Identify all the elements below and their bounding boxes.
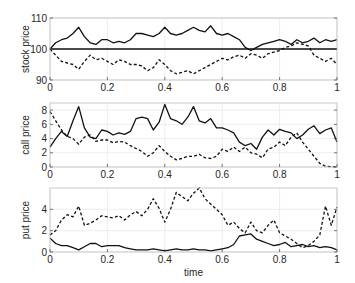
y-tick-label: 100 [30,44,47,55]
x-tick-label: 0 [47,169,53,180]
x-tick-label: 0.8 [273,254,287,265]
y-tick-label: 4 [41,133,47,144]
x-tick-label: 0.2 [100,82,114,93]
x-tick-label: 0.2 [100,254,114,265]
y-axis-label: stock price [20,25,31,73]
y-axis-label: call price [20,115,31,155]
panel-1: 9010011000.20.40.60.81stock price [20,13,340,94]
panel-3: 02400.20.40.60.81put pricetime [20,188,340,278]
x-tick-label: 0.8 [273,82,287,93]
x-tick-label: 0.6 [215,254,229,265]
x-tick-label: 1 [334,254,340,265]
x-tick-label: 0 [47,254,53,265]
y-tick-label: 6 [41,119,47,130]
x-tick-label: 0 [47,82,53,93]
figure: 9010011000.20.40.60.81stock price0246800… [0,0,355,283]
y-tick-label: 8 [41,105,47,116]
x-tick-label: 0.4 [158,169,172,180]
x-tick-label: 0.4 [158,254,172,265]
x-tick-label: 0.4 [158,82,172,93]
y-tick-label: 110 [31,13,47,24]
y-tick-label: 2 [41,147,47,158]
y-tick-label: 90 [36,75,48,86]
x-axis-label: time [184,267,203,278]
x-tick-label: 1 [334,169,340,180]
x-tick-label: 0.6 [215,82,229,93]
x-tick-label: 0.6 [215,169,229,180]
y-tick-label: 2 [41,225,47,236]
x-tick-label: 0.8 [273,169,287,180]
y-tick-label: 4 [41,204,47,215]
panel-2: 0246800.20.40.60.81call price [20,103,340,180]
x-tick-label: 1 [334,82,340,93]
y-axis-label: put price [20,200,31,239]
x-tick-label: 0.2 [100,169,114,180]
